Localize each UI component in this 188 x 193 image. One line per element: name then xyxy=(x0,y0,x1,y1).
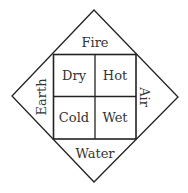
element-fire: Fire xyxy=(81,35,108,50)
element-air: Air xyxy=(137,86,152,108)
elements-diagram: Fire Water Earth Air Dry Hot Cold Wet xyxy=(0,0,188,193)
quality-hot: Hot xyxy=(103,68,128,83)
element-earth: Earth xyxy=(34,78,49,116)
quality-dry: Dry xyxy=(62,68,87,83)
element-water: Water xyxy=(75,146,115,161)
quality-wet: Wet xyxy=(102,110,128,125)
quality-cold: Cold xyxy=(59,110,89,125)
